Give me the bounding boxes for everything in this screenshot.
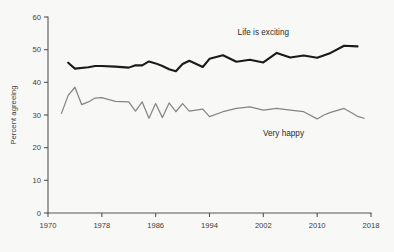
series-line-0 [68, 46, 357, 71]
y-tick-label: 60 [33, 13, 41, 22]
series-line-1 [61, 87, 364, 119]
x-tick-label: 1986 [147, 221, 164, 230]
series-label-0: Life is exciting [238, 28, 290, 37]
series-label-1: Very happy [263, 129, 305, 138]
y-tick-label: 10 [33, 176, 41, 185]
x-tick-label: 2018 [363, 221, 380, 230]
y-tick-label: 20 [33, 143, 41, 152]
line-chart: 0102030405060197019781986199420022010201… [0, 0, 394, 252]
y-tick-label: 0 [37, 209, 41, 218]
x-tick-label: 1970 [40, 221, 57, 230]
x-tick-label: 1978 [93, 221, 110, 230]
y-tick-label: 50 [33, 45, 41, 54]
y-tick-label: 30 [33, 111, 41, 120]
y-tick-label: 40 [33, 78, 41, 87]
chart-container: 0102030405060197019781986199420022010201… [0, 0, 394, 252]
y-axis-title: Percent agreeing [9, 85, 18, 144]
x-tick-label: 1994 [201, 221, 218, 230]
x-tick-label: 2002 [255, 221, 272, 230]
x-tick-label: 2010 [309, 221, 326, 230]
